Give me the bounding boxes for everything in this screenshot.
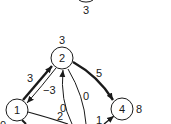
edge-2-1-weight: −3 bbox=[43, 84, 56, 96]
edge-in-4-weight: 1 bbox=[96, 114, 102, 124]
edge-1-2-weight: 3 bbox=[27, 72, 33, 84]
node-2-label: 2 bbox=[59, 52, 65, 64]
node-2-potential: 3 bbox=[59, 34, 65, 46]
node-top bbox=[79, 0, 93, 2]
node-top-potential: 3 bbox=[83, 4, 89, 16]
node-1-potential: 0 bbox=[0, 119, 6, 124]
edge-1-out-weight: 2 bbox=[57, 110, 63, 122]
node-4-potential: 8 bbox=[136, 103, 142, 115]
node-1-label: 1 bbox=[14, 104, 20, 116]
edge-2-down-weight: 0 bbox=[83, 90, 89, 102]
edge-up-to-2 bbox=[62, 70, 72, 124]
edge-in-to-4 bbox=[104, 116, 114, 124]
graph-canvas: 3 3 −3 5 0 0 2 1 2 3 1 0 4 8 bbox=[0, 0, 171, 124]
edge-2-4-weight: 5 bbox=[96, 67, 102, 79]
node-4-label: 4 bbox=[119, 103, 125, 115]
edge-2-to-4 bbox=[73, 62, 113, 100]
edge-1-down-left bbox=[22, 120, 26, 124]
